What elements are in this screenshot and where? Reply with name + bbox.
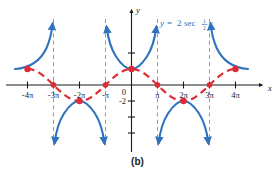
x-tick-label: -2π [74,90,86,100]
equation-annotation: y = 2 sec 1 2 x [159,18,213,31]
point-marker [24,66,30,72]
x-axis-label: x [267,83,272,93]
equation-fraction-denominator: 2 [203,25,206,31]
secant-branch-1 [15,24,53,69]
x-tick-label: 3π [205,90,214,100]
x-tick-label: -4π [22,90,34,100]
point-marker [207,82,213,88]
equation-function: sec [184,18,196,28]
axes-group [6,10,262,152]
point-marker [128,66,134,72]
x-tick-label: -π [102,90,110,100]
equation-fraction-numerator: 1 [203,18,206,24]
x-tick-label: 4π [231,90,240,100]
secant-branch-4 [159,101,209,143]
point-marker [155,82,161,88]
x-tick-label: π [155,90,160,100]
secant-branch-2 [55,101,105,143]
equation-lhs: y [159,18,164,28]
equation-coefficient: 2 [177,18,182,28]
y-axis-label: y [135,5,140,15]
equation-equals: = [167,18,172,28]
point-marker [103,82,109,88]
y-axis-tick-labels: -2 [119,96,126,106]
x-tick-label: 2π [179,90,188,100]
figure-caption: (b) [0,156,275,167]
figure-container: -4π -3π -2π -π π 2π 3π 4π -2 0 y x y = 2… [0,0,275,177]
origin-label: 0 [122,87,126,97]
secant-branch-5 [211,24,248,69]
y-tick-label-neg2: -2 [119,96,126,106]
equation-variable: x [208,18,213,28]
secant-function-plot: -4π -3π -2π -π π 2π 3π 4π -2 0 y x y = 2… [0,0,275,177]
x-tick-label: -3π [48,90,60,100]
point-marker [51,82,57,88]
point-marker [232,66,238,72]
